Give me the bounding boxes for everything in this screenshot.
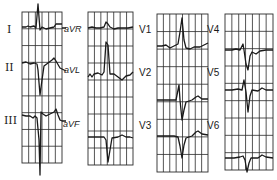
lead-label-V6: V6 [207,121,219,131]
grid-limb-augmented [88,12,133,165]
lead-label-I: I [7,24,11,35]
lead-label-III: III [4,115,17,126]
lead-label-V2: V2 [139,68,151,78]
lead-label-II: II [5,62,14,73]
grid-precordial-1 [157,14,208,172]
lead-label-V1: V1 [139,25,151,35]
lead-label-V4: V4 [207,25,219,35]
lead-label-V3: V3 [139,121,151,131]
grid-precordial-2 [225,14,273,170]
lead-label-aVR: aVR [64,25,82,34]
ecg-grid-layer [22,12,273,172]
lead-label-aVF: aVF [63,120,80,129]
lead-label-aVL: aVL [64,66,80,75]
grid-limb-standard [22,12,62,163]
lead-label-V5: V5 [207,68,219,78]
